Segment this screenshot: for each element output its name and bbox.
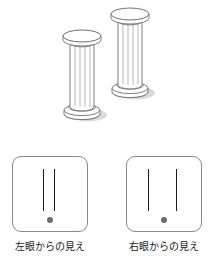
left-eye-bar-near	[43, 169, 45, 211]
right-eye-bar-far	[176, 169, 178, 211]
near-pillar-capital-top	[63, 30, 101, 42]
right-eye-fixation-dot	[161, 217, 167, 223]
left-eye-fixation-dot	[47, 217, 53, 223]
near-pillar-shaft	[70, 43, 94, 111]
right-eye-panel	[126, 156, 202, 232]
left-eye-panel	[12, 156, 88, 232]
eye-views: 左眼からの見え 右眼からの見え	[0, 150, 222, 268]
binocular-disparity-figure: 左眼からの見え 右眼からの見え	[0, 0, 222, 268]
far-pillar	[111, 8, 155, 100]
right-eye-bar-near	[148, 169, 150, 211]
right-eye-caption: 右眼からの見え	[122, 238, 206, 253]
left-eye-view: 左眼からの見え	[8, 150, 100, 268]
far-pillar-shaft	[118, 21, 142, 89]
pillar-scene	[0, 0, 222, 150]
pillar-scene-svg	[0, 0, 222, 150]
left-eye-caption: 左眼からの見え	[8, 238, 92, 253]
right-eye-view: 右眼からの見え	[122, 150, 214, 268]
near-pillar	[63, 30, 107, 122]
left-eye-bar-far	[54, 169, 56, 211]
far-pillar-capital-top	[111, 8, 149, 20]
